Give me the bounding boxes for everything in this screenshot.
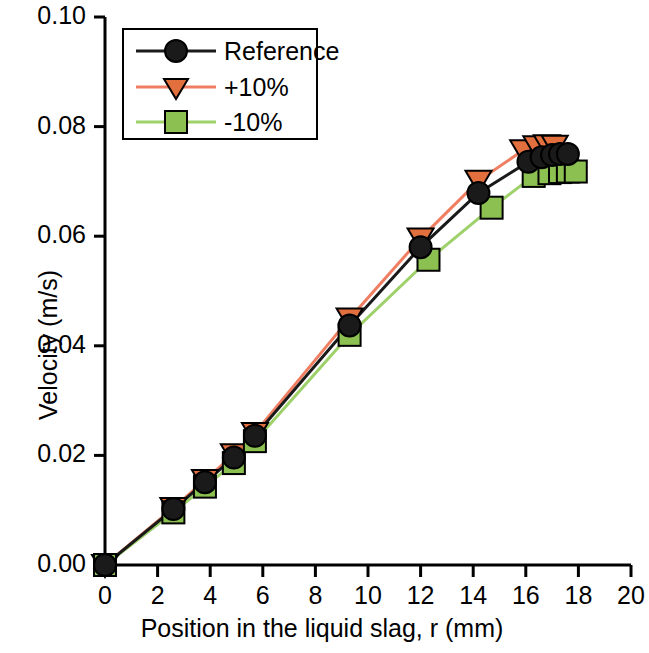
legend-swatch-reference (134, 34, 218, 68)
legend-entry-minus10: -10% (124, 105, 320, 139)
x-tick-label: 14 (443, 581, 503, 610)
x-tick-label: 20 (601, 581, 649, 610)
data-point (410, 236, 432, 258)
x-tick-label: 6 (233, 581, 293, 610)
legend-label-plus10: +10% (224, 73, 289, 102)
x-tick-label: 10 (338, 581, 398, 610)
y-tick-label: 0.02 (0, 439, 86, 468)
data-point (339, 315, 361, 337)
x-tick-label: 4 (180, 581, 240, 610)
data-point (194, 471, 216, 493)
legend-swatch-minus10 (134, 105, 218, 139)
data-point (557, 143, 579, 165)
data-point (94, 554, 116, 576)
legend-entry-plus10: +10% (124, 70, 320, 104)
y-tick-label: 0.00 (0, 549, 86, 578)
y-tick-label: 0.08 (0, 111, 86, 140)
x-tick-marks (105, 565, 631, 577)
data-point (467, 182, 489, 204)
x-tick-label: 12 (391, 581, 451, 610)
markers-reference (94, 143, 579, 576)
legend-entry-reference: Reference (124, 34, 320, 68)
x-tick-label: 2 (128, 581, 188, 610)
data-point (223, 447, 245, 469)
data-series-group (92, 135, 587, 577)
legend-swatch-plus10 (134, 70, 218, 104)
y-tick-marks (94, 17, 105, 565)
legend-label-minus10: -10% (224, 108, 282, 137)
x-tick-label: 0 (75, 581, 135, 610)
data-point (162, 498, 184, 520)
x-tick-label: 8 (285, 581, 345, 610)
x-axis-title: Position in the liquid slag, r (mm) (0, 614, 644, 643)
y-tick-label: 0.06 (0, 220, 86, 249)
data-point (244, 425, 266, 447)
y-tick-label: 0.10 (0, 1, 86, 30)
legend-label-reference: Reference (224, 37, 339, 66)
y-axis-title: Velocity (m/s) (34, 270, 63, 420)
legend: Reference +10% -10% (122, 28, 318, 140)
x-tick-label: 16 (496, 581, 556, 610)
x-tick-label: 18 (548, 581, 608, 610)
